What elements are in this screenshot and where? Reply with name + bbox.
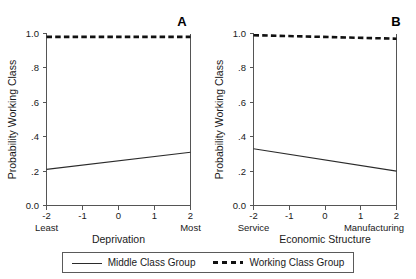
panel-b-xtick-4: 2 <box>394 210 399 221</box>
legend-entry-working-class-group: Working Class Group <box>213 253 344 272</box>
panel-a-ytick-5: 1.0 <box>26 28 39 39</box>
solid-line-sample-icon <box>72 258 102 268</box>
legend-label-middle-class-group: Middle Class Group <box>108 258 196 268</box>
panel-b-left-endpoint-label: Service <box>238 222 270 233</box>
panel-b-ytick-4: .8 <box>238 62 246 73</box>
panel-a-series-middle-class-group <box>47 152 191 169</box>
panel-a-plot: A 0.0 .2 .4 .6 .8 1.0 Probability Workin… <box>0 0 208 246</box>
legend-entry-middle-class-group: Middle Class Group <box>72 253 196 272</box>
panel-a-axis-frame <box>47 34 191 206</box>
panel-a: A 0.0 .2 .4 .6 .8 1.0 Probability Workin… <box>0 0 208 246</box>
dashed-line-sample-icon <box>213 258 243 268</box>
panel-a-right-endpoint-label: Most <box>180 222 201 233</box>
panel-a-ytick-4: .8 <box>31 62 39 73</box>
panel-a-xtick-1: -1 <box>78 210 86 221</box>
panel-b-y-axis-title: Probability Working Class <box>213 60 225 179</box>
panel-b: B 0.0 .2 .4 .6 .8 1.0 Probability Workin… <box>208 0 416 246</box>
panel-a-ytick-2: .4 <box>31 131 39 142</box>
panel-a-y-ticks <box>43 34 47 206</box>
figure-root: A 0.0 .2 .4 .6 .8 1.0 Probability Workin… <box>0 0 416 279</box>
panel-b-ytick-5: 1.0 <box>233 28 246 39</box>
panel-b-right-endpoint-label: Manufacturing <box>344 222 404 233</box>
panel-b-xtick-0: -2 <box>249 210 257 221</box>
panel-a-x-ticks <box>47 206 191 210</box>
panel-a-xtick-4: 2 <box>188 210 193 221</box>
panel-a-left-endpoint-label: Least <box>35 222 59 233</box>
panel-b-plot: B 0.0 .2 .4 .6 .8 1.0 Probability Workin… <box>208 0 416 246</box>
panel-a-ytick-0: 0.0 <box>26 200 39 211</box>
panel-a-ytick-3: .6 <box>31 97 39 108</box>
legend-label-working-class-group: Working Class Group <box>249 258 344 268</box>
panel-a-letter: A <box>177 14 187 29</box>
panel-b-series-working-class-group <box>254 35 397 39</box>
panel-b-ytick-3: .6 <box>238 97 246 108</box>
legend: Middle Class Group Working Class Group <box>62 252 354 273</box>
panel-b-ytick-1: .2 <box>238 166 246 177</box>
panel-b-x-ticks <box>254 206 397 210</box>
panel-b-series-middle-class-group <box>254 149 397 171</box>
panel-a-y-axis-title: Probability Working Class <box>6 60 18 179</box>
panel-b-x-axis-title: Economic Structure <box>279 233 371 245</box>
panel-b-xtick-2: 0 <box>322 210 327 221</box>
panel-a-ytick-1: .2 <box>31 166 39 177</box>
panel-b-xtick-3: 1 <box>358 210 363 221</box>
panel-b-ytick-2: .4 <box>238 131 246 142</box>
panel-a-x-axis-title: Deprivation <box>92 233 145 245</box>
panel-b-y-ticks <box>250 34 254 206</box>
panel-b-ytick-0: 0.0 <box>233 200 246 211</box>
panel-a-xtick-2: 0 <box>116 210 121 221</box>
panel-b-xtick-1: -1 <box>285 210 293 221</box>
panel-b-axis-frame <box>254 34 397 206</box>
panel-a-xtick-3: 1 <box>152 210 157 221</box>
panel-a-xtick-0: -2 <box>42 210 50 221</box>
panel-b-letter: B <box>391 14 400 29</box>
